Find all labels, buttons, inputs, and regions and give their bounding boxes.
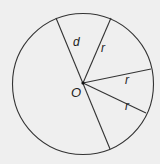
circle-diagram-svg: d r r r O [0, 0, 160, 164]
radius-line-1 [83, 18, 111, 83]
radius-label-2: r [125, 73, 130, 87]
radius-label-1: r [101, 41, 106, 55]
center-label: O [71, 85, 81, 100]
diameter-label: d [73, 35, 80, 49]
radius-line-2 [83, 69, 151, 83]
center-point [81, 81, 84, 84]
circle-diagram: d r r r O [0, 0, 160, 164]
radius-label-3: r [125, 99, 130, 113]
radius-line-3 [83, 83, 146, 113]
